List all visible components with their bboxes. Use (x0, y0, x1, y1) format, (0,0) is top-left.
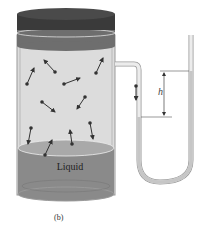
lid (17, 8, 115, 51)
molecule-dot (62, 82, 66, 86)
molecule-dot (29, 126, 33, 130)
molecule-dot (83, 95, 87, 99)
molecule-dot (25, 82, 29, 86)
liquid-label: Liquid (50, 161, 90, 172)
molecule-dot (88, 121, 92, 125)
molecule-dot (40, 100, 44, 104)
molecule-dot (43, 153, 47, 157)
figure-caption: (b) (54, 213, 63, 222)
molecule-dot (94, 71, 98, 75)
vapor-pressure-manometer-diagram: Liquid h (b) (0, 0, 207, 231)
molecule-dot (53, 70, 57, 74)
diagram-svg (0, 0, 207, 231)
manometer (115, 35, 191, 182)
molecule-dot (134, 84, 138, 88)
molecule-dot (70, 142, 74, 146)
height-label: h (158, 86, 163, 97)
